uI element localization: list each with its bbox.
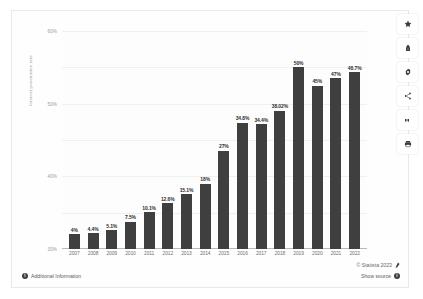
bar[interactable] (88, 233, 99, 249)
bar[interactable] (200, 184, 211, 249)
bar-value-label: 15.1% (180, 187, 194, 193)
x-axis-tick-label: 2022 (345, 251, 364, 256)
x-axis-tick-label: 2020 (308, 251, 327, 256)
additional-information-link[interactable]: i Additional Information (22, 273, 81, 279)
statista-logo-icon (395, 262, 400, 268)
bar-value-label: 5.1% (106, 223, 117, 229)
bar-value-label: 34.4% (254, 117, 268, 123)
chart-footer: i Additional Information © Statista 2023… (12, 257, 410, 287)
x-axis-tick-label: 2007 (65, 251, 84, 256)
x-axis-tick-label: 2009 (102, 251, 121, 256)
bar-value-label: 4% (71, 227, 78, 233)
x-axis-tick-label: 2017 (252, 251, 271, 256)
gear-icon (404, 68, 412, 76)
x-axis-tick-label: 2021 (327, 251, 346, 256)
chart-area: Internet penetration rate 60%50%40%30%20… (12, 11, 410, 259)
print-button[interactable] (397, 134, 418, 154)
show-source-label: Show source (361, 273, 391, 279)
bar-value-label: 50% (294, 60, 304, 66)
screenshot-root: Internet penetration rate 60%50%40%30%20… (0, 0, 423, 299)
bar-slot[interactable]: 47% (327, 31, 346, 249)
bar[interactable] (125, 222, 136, 249)
bar-value-label: 38.02% (272, 103, 288, 109)
bar-slot[interactable]: 48.7% (345, 31, 364, 249)
y-axis-tick-label: 50% (48, 101, 58, 106)
clipped-top-text (64, 0, 104, 4)
bar[interactable] (330, 78, 341, 249)
bar-value-label: 48.7% (348, 65, 362, 71)
copyright: © Statista 2023 (356, 262, 400, 268)
bar[interactable] (162, 203, 173, 249)
share-icon (404, 92, 412, 100)
bar[interactable] (144, 212, 155, 249)
y-axis-tick-label: 60% (48, 29, 58, 34)
bar-slot[interactable]: 34.4% (252, 31, 271, 249)
bar[interactable] (69, 234, 80, 249)
bar-value-label: 34.8% (236, 115, 250, 121)
bar[interactable] (218, 151, 229, 249)
share-button[interactable] (397, 86, 418, 106)
bar-slot[interactable]: 15.1% (177, 31, 196, 249)
print-icon (404, 140, 412, 148)
info-icon: i (22, 273, 28, 279)
y-axis-title: Internet penetration rate (28, 16, 33, 106)
show-source-link[interactable]: Show source i (361, 273, 400, 279)
bar-slot[interactable]: 27% (215, 31, 234, 249)
lock-icon (404, 44, 412, 52)
bar-slot[interactable]: 4.4% (84, 31, 103, 249)
bar-value-label: 18% (200, 176, 210, 182)
bar-slot[interactable]: 18% (196, 31, 215, 249)
info-icon: i (394, 273, 400, 279)
bar-value-label: 27% (219, 143, 229, 149)
bar-slot[interactable]: 45% (308, 31, 327, 249)
bar[interactable] (181, 194, 192, 249)
statista-chart-card: Internet penetration rate 60%50%40%30%20… (11, 10, 409, 288)
copyright-label: © Statista 2023 (356, 262, 392, 268)
x-axis-labels: 2007200820092010201120122013201420152016… (62, 251, 367, 256)
x-axis-tick-label: 2011 (140, 251, 159, 256)
bar-value-label: 4.4% (88, 226, 99, 232)
bar-slot[interactable]: 10.1% (140, 31, 159, 249)
lock-button[interactable] (397, 38, 418, 58)
y-axis-tick-label: 40% (48, 174, 58, 179)
favorite-button[interactable] (397, 14, 418, 34)
bar-slot[interactable]: 5.1% (102, 31, 121, 249)
bar[interactable] (106, 230, 117, 249)
bar-series: 4%4.4%5.1%7.5%10.1%12.6%15.1%18%27%34.8%… (62, 31, 367, 249)
star-icon (404, 20, 412, 28)
bar-slot[interactable]: 12.6% (158, 31, 177, 249)
x-axis-tick-label: 2018 (271, 251, 290, 256)
bar[interactable] (293, 67, 304, 249)
x-axis-tick-label: 2016 (233, 251, 252, 256)
chart-toolbar (397, 14, 418, 154)
bar-slot[interactable]: 50% (289, 31, 308, 249)
bar[interactable] (256, 124, 267, 249)
x-axis-tick-label: 2010 (121, 251, 140, 256)
x-axis-tick-label: 2013 (177, 251, 196, 256)
plot-region: 60%50%40%30%20%10%0% 4%4.4%5.1%7.5%10.1%… (62, 31, 367, 249)
y-axis-tick-label: 30% (48, 247, 58, 252)
bar[interactable] (274, 111, 285, 249)
bar-value-label: 10.1% (142, 205, 156, 211)
bar[interactable] (237, 123, 248, 249)
x-axis-tick-label: 2012 (158, 251, 177, 256)
x-axis-tick-label: 2015 (215, 251, 234, 256)
bar-value-label: 12.6% (161, 196, 175, 202)
bar-value-label: 45% (312, 78, 322, 84)
gridline: 0% (62, 249, 367, 250)
bar-value-label: 7.5% (125, 214, 136, 220)
bar-slot[interactable]: 7.5% (121, 31, 140, 249)
quote-icon (404, 116, 412, 124)
x-axis-tick-label: 2019 (289, 251, 308, 256)
bar-slot[interactable]: 34.8% (233, 31, 252, 249)
additional-information-label: Additional Information (31, 273, 81, 279)
cite-button[interactable] (397, 110, 418, 130)
bar[interactable] (349, 72, 360, 249)
x-axis-tick-label: 2014 (196, 251, 215, 256)
bar[interactable] (312, 86, 323, 250)
bar-value-label: 47% (331, 71, 341, 77)
settings-button[interactable] (397, 62, 418, 82)
x-axis-tick-label: 2008 (84, 251, 103, 256)
bar-slot[interactable]: 38.02% (271, 31, 290, 249)
bar-slot[interactable]: 4% (65, 31, 84, 249)
